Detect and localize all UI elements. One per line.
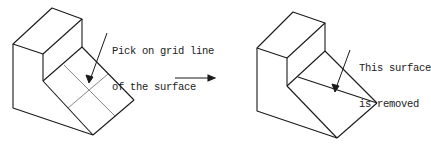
after-callout-arrow: [332, 50, 350, 92]
before-callout-arrow: [86, 33, 107, 83]
surface-grid: [64, 65, 116, 117]
after-callout-line-1: This surface: [359, 62, 431, 74]
before-callout-line-2: of the surface: [112, 81, 214, 93]
after-callout-line-2: is removed: [359, 98, 431, 110]
before-callout-line-1: Pick on grid line: [112, 45, 214, 57]
before-callout-text: Pick on grid line of the surface: [112, 21, 214, 105]
after-callout-text: This surface is removed: [359, 38, 431, 122]
